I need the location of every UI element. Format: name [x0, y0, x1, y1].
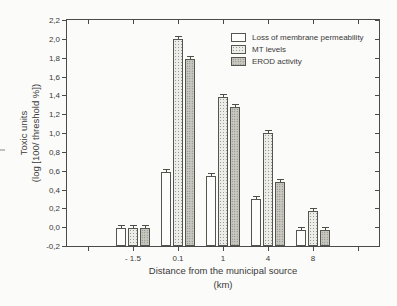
y-tick-left: [62, 227, 66, 228]
y-tick-label: 0,4: [24, 186, 60, 195]
bar: [140, 228, 150, 246]
y-tick-right: [375, 246, 379, 247]
x-tick-label: 8: [291, 254, 335, 264]
error-bar-whisker: [280, 180, 281, 182]
x-axis-title-line1: Distance from the municipal source: [63, 264, 383, 278]
error-bar-whisker: [235, 105, 236, 107]
bar: [128, 228, 138, 246]
error-bar-whisker: [325, 228, 326, 230]
legend-item: MT levels: [231, 43, 364, 55]
y-tick-right: [375, 133, 379, 134]
x-tick-top: [133, 20, 134, 24]
error-bar-whisker: [145, 226, 146, 228]
x-tick-bottom: [223, 247, 224, 251]
x-tick-top: [223, 20, 224, 24]
x-tick-label: 4: [246, 254, 290, 264]
legend-swatch: [231, 33, 246, 42]
y-tick-label: 1,0: [24, 129, 60, 138]
y-tick-right: [375, 77, 379, 78]
y-tick-right: [375, 20, 379, 21]
y-tick-left: [62, 77, 66, 78]
x-tick-top: [268, 20, 269, 24]
error-bar-cap: [277, 179, 284, 180]
bar: [251, 199, 261, 246]
bar: [116, 228, 126, 246]
bar: [275, 182, 285, 246]
x-axis-title-line2: (km): [63, 278, 383, 292]
error-bar-cap: [163, 169, 170, 170]
legend-item: Loss of membrane permeability: [231, 31, 364, 43]
bar: [320, 230, 330, 246]
y-tick-label: 1,8: [24, 54, 60, 63]
y-tick-right: [375, 152, 379, 153]
error-bar-cap: [265, 130, 272, 131]
x-tick-top: [313, 20, 314, 24]
error-bar-cap: [322, 227, 329, 228]
error-bar-cap: [232, 104, 239, 105]
y-tick-label: 1,2: [24, 110, 60, 119]
error-bar-cap: [175, 36, 182, 37]
y-tick-right: [375, 227, 379, 228]
y-tick-label: 0,8: [24, 148, 60, 157]
error-bar-cap: [130, 225, 137, 226]
legend-label: EROD activity: [252, 57, 302, 66]
y-tick-right: [375, 58, 379, 59]
error-bar-cap: [208, 173, 215, 174]
y-tick-left: [62, 152, 66, 153]
y-tick-left: [62, 190, 66, 191]
x-tick-label: 1: [201, 254, 245, 264]
x-tick-bottom: [268, 247, 269, 251]
error-bar-cap: [187, 56, 194, 57]
error-bar-whisker: [178, 37, 179, 39]
y-tick-label: 1,4: [24, 91, 60, 100]
error-bar-whisker: [121, 226, 122, 228]
y-tick-right: [375, 114, 379, 115]
bar: [185, 59, 195, 246]
error-bar-whisker: [190, 57, 191, 59]
x-tick-top: [88, 20, 89, 24]
y-tick-left: [62, 58, 66, 59]
bar: [173, 39, 183, 246]
error-bar-whisker: [133, 226, 134, 228]
y-tick-label: -0,2: [24, 242, 60, 251]
y-tick-label: 1,6: [24, 73, 60, 82]
error-bar-cap: [253, 196, 260, 197]
error-bar-whisker: [313, 209, 314, 211]
x-tick-top: [358, 20, 359, 24]
error-bar-cap: [220, 94, 227, 95]
error-bar-cap: [142, 225, 149, 226]
error-bar-whisker: [268, 131, 269, 133]
y-tick-left: [62, 133, 66, 134]
x-tick-label: 0.1: [156, 254, 200, 264]
error-bar-whisker: [166, 170, 167, 172]
y-tick-label: 0,6: [24, 167, 60, 176]
figure: Toxic units (log [100/ threshold %]) Los…: [0, 0, 397, 306]
y-tick-right: [375, 190, 379, 191]
bar: [296, 230, 306, 246]
x-tick-bottom: [358, 247, 359, 251]
y-tick-left: [62, 39, 66, 40]
x-axis-title: Distance from the municipal source (km): [63, 264, 383, 292]
x-tick-bottom: [178, 247, 179, 251]
error-bar-cap: [118, 225, 125, 226]
error-bar-whisker: [301, 228, 302, 230]
y-tick-right: [375, 39, 379, 40]
y-tick-left: [62, 95, 66, 96]
y-tick-label: 0,2: [24, 204, 60, 213]
bar: [206, 176, 216, 246]
bar: [218, 97, 228, 246]
scan-artifact: [0, 149, 5, 151]
error-bar-whisker: [223, 95, 224, 97]
legend-swatch: [231, 45, 246, 54]
legend-label: Loss of membrane permeability: [252, 33, 364, 42]
x-tick-bottom: [88, 247, 89, 251]
x-tick-label: - 1.5: [111, 254, 155, 264]
legend: Loss of membrane permeabilityMT levelsER…: [231, 31, 364, 67]
bar: [230, 107, 240, 246]
x-tick-top: [178, 20, 179, 24]
y-tick-left: [62, 20, 66, 21]
y-tick-left: [62, 208, 66, 209]
y-tick-label: 2,0: [24, 35, 60, 44]
legend-label: MT levels: [252, 45, 286, 54]
legend-item: EROD activity: [231, 55, 364, 67]
